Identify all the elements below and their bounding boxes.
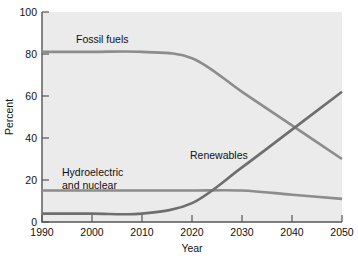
xtick-label-2050: 2050 bbox=[330, 226, 354, 238]
xtick-label-1990: 1990 bbox=[30, 226, 54, 238]
xtick-label-2040: 2040 bbox=[280, 226, 304, 238]
ytick-label-20: 20 bbox=[25, 174, 37, 186]
xtick-label-2030: 2030 bbox=[230, 226, 254, 238]
ytick-label-100: 100 bbox=[19, 6, 37, 18]
series-label-hydro-line1: Hydroelectric bbox=[62, 166, 123, 178]
series-label-fossil-fuels: Fossil fuels bbox=[76, 33, 129, 45]
ytick-label-40: 40 bbox=[25, 132, 37, 144]
ytick-label-60: 60 bbox=[25, 90, 37, 102]
series-label-renewables: Renewables bbox=[190, 149, 248, 161]
chart-svg: 0 20 40 60 80 100 1990 2000 2010 2020 20… bbox=[0, 0, 358, 268]
energy-mix-line-chart: 0 20 40 60 80 100 1990 2000 2010 2020 20… bbox=[0, 0, 358, 268]
xtick-label-2000: 2000 bbox=[80, 226, 104, 238]
series-label-hydro-line2: and nuclear bbox=[62, 179, 117, 191]
ytick-label-80: 80 bbox=[25, 48, 37, 60]
y-axis-tick-labels: 0 20 40 60 80 100 bbox=[19, 6, 37, 228]
x-axis-tick-labels: 1990 2000 2010 2020 2030 2040 2050 bbox=[30, 226, 354, 238]
y-axis-title: Percent bbox=[3, 99, 15, 135]
x-axis-title: Year bbox=[181, 242, 203, 254]
xtick-label-2020: 2020 bbox=[180, 226, 204, 238]
xtick-label-2010: 2010 bbox=[130, 226, 154, 238]
